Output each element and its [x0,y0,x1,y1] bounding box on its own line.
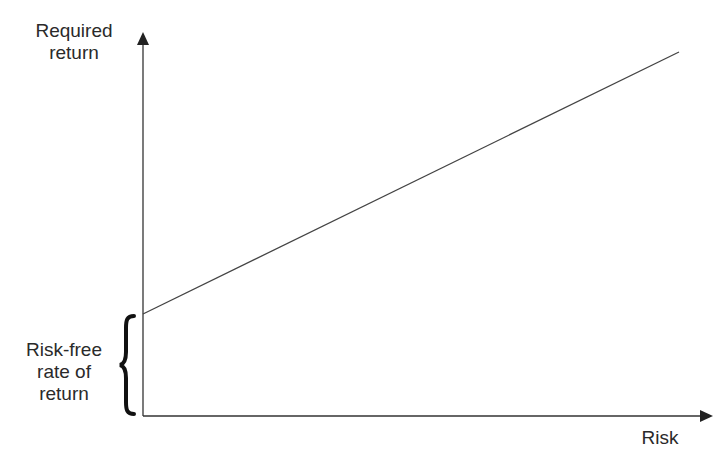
x-axis-arrow-icon [700,410,713,422]
y-axis-arrow-icon [137,32,149,45]
risk-free-label-line-1: Risk-free [10,339,118,361]
y-axis-label-line-2: return [14,42,134,64]
x-axis-label: Risk [630,427,690,449]
y-axis-label: Required return [14,20,134,64]
y-axis-label-line-1: Required [14,20,134,42]
brace-icon [120,316,134,414]
risk-free-label-line-2: rate of [10,361,118,383]
risk-free-label: Risk-free rate of return [10,339,118,405]
risk-free-label-line-3: return [10,383,118,405]
required-return-line [143,52,679,314]
